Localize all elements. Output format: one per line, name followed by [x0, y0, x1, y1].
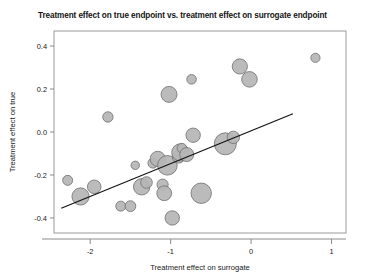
y-tick-label: 0.4: [37, 42, 47, 51]
y-tick-label: 0.2: [37, 85, 47, 94]
data-point-bubble: [187, 75, 197, 85]
scatter-plot: -2-1010.40.20.0-0.2-0.4Treatment effect …: [0, 0, 365, 280]
y-tick-label: -0.4: [34, 214, 47, 223]
data-point-bubble: [186, 128, 200, 142]
data-point-bubble: [63, 175, 73, 185]
y-tick-label: -0.2: [34, 171, 47, 180]
data-point-bubble: [161, 86, 177, 102]
data-point-bubble: [116, 201, 126, 211]
x-tick-label: -1: [167, 247, 174, 256]
data-point-bubble: [141, 177, 153, 189]
y-axis-title: Treatment effect on true: [8, 92, 17, 173]
data-point-bubble: [157, 186, 172, 201]
data-point-bubble: [125, 201, 136, 212]
chart-figure: Treatment effect on true endpoint vs. tr…: [0, 0, 365, 280]
data-point-bubble: [103, 112, 113, 122]
x-tick-label: 0: [249, 247, 253, 256]
x-tick-label: -2: [87, 247, 94, 256]
data-point-bubble: [311, 53, 320, 62]
data-point-bubble: [227, 131, 239, 143]
data-point-bubble: [131, 161, 139, 169]
data-point-bubble: [191, 183, 211, 203]
data-point-bubble: [87, 180, 101, 194]
data-point-bubble: [165, 211, 179, 225]
data-point-bubble: [232, 59, 247, 74]
data-point-bubble: [242, 72, 258, 88]
x-tick-label: 1: [329, 247, 333, 256]
regression-line: [61, 114, 293, 209]
x-axis-title: Treatment effect on surrogate: [150, 263, 250, 272]
y-tick-label: 0.0: [37, 128, 47, 137]
